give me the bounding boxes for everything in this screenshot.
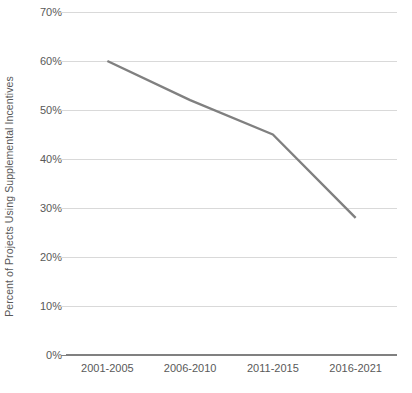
y-axis-tick-labels: 70%60%50%40%30%20%10%0% bbox=[18, 0, 62, 393]
x-axis-tick-labels: 2001-20052006-20102011-20152016-2021 bbox=[66, 363, 397, 383]
x-axis-tick-label: 2016-2021 bbox=[329, 363, 382, 374]
plot-area bbox=[66, 12, 397, 355]
y-axis-title: Percent of Projects Using Supplemental I… bbox=[0, 0, 18, 393]
y-axis-tick-label: 20% bbox=[22, 252, 62, 263]
y-axis-tick-label: 0% bbox=[22, 350, 62, 361]
y-axis-tick-label: 60% bbox=[22, 56, 62, 67]
x-axis-tick-label: 2001-2005 bbox=[81, 363, 134, 374]
y-axis-tick-label: 70% bbox=[22, 7, 62, 18]
series-line-group bbox=[66, 12, 397, 355]
y-axis-tick-label: 50% bbox=[22, 105, 62, 116]
y-axis-tick-label: 30% bbox=[22, 203, 62, 214]
x-axis-tick-label: 2011-2015 bbox=[247, 363, 299, 374]
series-line bbox=[107, 61, 355, 218]
x-axis-tick-label: 2006-2010 bbox=[164, 363, 217, 374]
y-axis-tick-label: 40% bbox=[22, 154, 62, 165]
y-axis-tick-label: 10% bbox=[22, 301, 62, 312]
line-chart: Percent of Projects Using Supplemental I… bbox=[0, 0, 412, 393]
